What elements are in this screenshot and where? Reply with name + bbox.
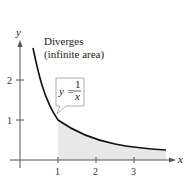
diverges-label: Diverges — [44, 35, 84, 47]
x-axis-arrow — [169, 158, 176, 163]
callout-denominator: x — [74, 90, 80, 102]
y-axis-arrow — [18, 40, 23, 47]
x-axis-label: x — [177, 153, 183, 165]
y-tick-label-2: 2 — [7, 75, 12, 86]
callout-lhs: y = — [58, 85, 74, 97]
diverges-sublabel: (infinite area) — [44, 48, 104, 61]
callout-numerator: 1 — [75, 78, 81, 90]
x-tick-label-3: 3 — [131, 166, 136, 177]
x-tick-label-1: 1 — [55, 166, 60, 177]
chart: 1 2 3 1 2 y x Diverges (infinite area) y… — [0, 0, 184, 184]
curve-1-over-x — [33, 48, 166, 150]
y-tick-label-1: 1 — [7, 115, 12, 126]
y-axis-label: y — [15, 26, 21, 38]
shaded-area — [58, 120, 166, 160]
x-tick-label-2: 2 — [93, 166, 98, 177]
